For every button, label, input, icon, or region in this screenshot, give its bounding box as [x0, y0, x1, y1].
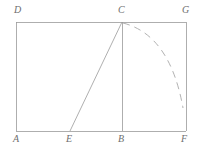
- segment-ec: [70, 22, 122, 131]
- vertex-label-f: F: [181, 134, 187, 144]
- vertex-label-g: G: [182, 5, 189, 15]
- figure-canvas: [0, 0, 203, 149]
- vertex-label-b: B: [118, 134, 124, 144]
- dashed-arc-c-to-f: [123, 23, 183, 108]
- vertex-label-c: C: [118, 5, 125, 15]
- vertex-label-d: D: [14, 5, 21, 15]
- geometry-figure: D C G A E B F: [0, 0, 203, 149]
- vertex-label-e: E: [66, 134, 72, 144]
- vertex-label-a: A: [13, 134, 19, 144]
